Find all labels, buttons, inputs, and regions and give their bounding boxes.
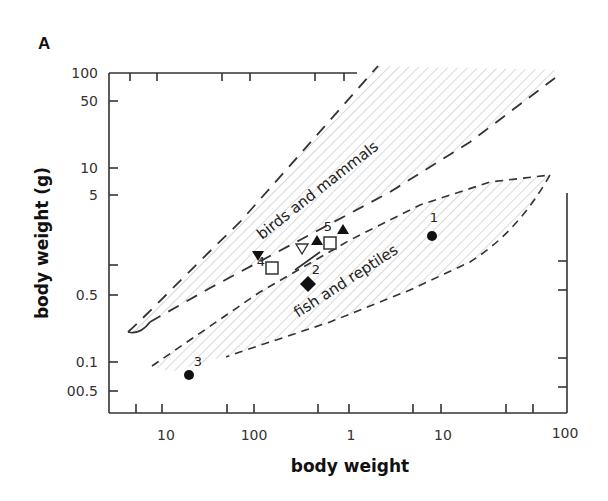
x-tick-10b: 10 xyxy=(434,427,452,443)
point-2-label: 2 xyxy=(312,262,320,277)
y-tick-5: 5 xyxy=(89,187,98,203)
y-tick-labels: 100 50 10 5 0.5 0.1 00.5 xyxy=(67,65,98,399)
x-tick-10: 10 xyxy=(157,427,175,443)
y-tick-0-1: 0.1 xyxy=(76,354,98,370)
filled-triangle-up-icon xyxy=(337,224,349,234)
open-triangle-down-icon xyxy=(296,244,308,254)
y-tick-00-5: 00.5 xyxy=(67,383,98,399)
x-tick-100b: 100 xyxy=(552,425,579,441)
x-tick-100: 100 xyxy=(241,427,268,443)
x-tick-1: 1 xyxy=(347,427,356,443)
x-axis-title: body weight xyxy=(291,456,409,476)
chart-canvas: A xyxy=(0,0,608,501)
y-tick-50: 50 xyxy=(80,93,98,109)
point-5-label: 5 xyxy=(324,219,332,234)
point-4-open-square xyxy=(266,262,278,274)
point-1-label: 1 xyxy=(430,210,438,225)
panel-label: A xyxy=(38,34,50,53)
point-5-open-square xyxy=(324,237,336,249)
y-tick-100: 100 xyxy=(71,65,98,81)
filled-triangle-up-icon xyxy=(311,235,323,245)
point-1-filled-circle xyxy=(427,231,437,241)
point-3-label: 3 xyxy=(194,354,202,369)
point-3-filled-circle xyxy=(184,370,194,380)
y-tick-0-5: 0.5 xyxy=(76,287,98,303)
y-tick-10: 10 xyxy=(80,160,98,176)
y-axis-title: body weight (g) xyxy=(32,167,52,319)
x-tick-labels: 10 100 1 10 100 xyxy=(157,425,578,443)
